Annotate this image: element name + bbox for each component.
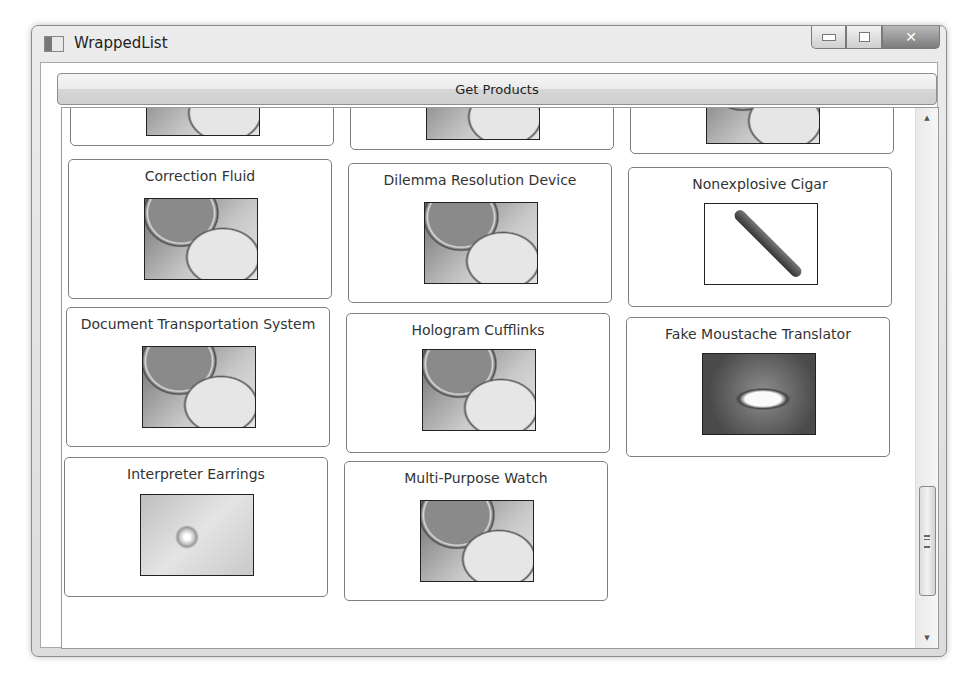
close-icon: ✕	[905, 29, 917, 45]
product-image	[706, 107, 820, 144]
cigar-icon	[732, 208, 803, 279]
product-card[interactable]: Document Transportation System	[66, 307, 330, 447]
minimize-button[interactable]	[811, 26, 846, 49]
product-card[interactable]	[630, 107, 894, 154]
product-card[interactable]: Interpreter Earrings	[64, 457, 328, 597]
product-card[interactable]: Correction Fluid	[68, 159, 332, 299]
product-image	[420, 500, 534, 582]
product-image	[142, 346, 256, 428]
product-image	[144, 198, 258, 280]
product-card[interactable]: Dilemma Resolution Device	[348, 163, 612, 303]
window-title: WrappedList	[74, 34, 168, 52]
product-card[interactable]	[350, 107, 614, 150]
maximize-icon	[859, 32, 870, 42]
scroll-down-arrow-icon[interactable]: ▼	[916, 630, 938, 646]
product-name: Multi-Purpose Watch	[345, 470, 607, 486]
title-bar[interactable]: WrappedList ✕	[32, 26, 946, 62]
vertical-scrollbar[interactable]: ▲ ▼	[915, 108, 938, 648]
product-card[interactable]	[70, 107, 334, 146]
product-name: Document Transportation System	[67, 316, 329, 332]
product-card[interactable]: Nonexplosive Cigar	[628, 167, 892, 307]
app-icon	[44, 36, 64, 52]
maximize-button[interactable]	[846, 26, 882, 49]
grip-icon	[924, 535, 930, 548]
product-image	[704, 203, 818, 285]
product-image	[140, 494, 254, 576]
product-name: Interpreter Earrings	[65, 466, 327, 482]
product-card[interactable]: Multi-Purpose Watch	[344, 461, 608, 601]
product-list[interactable]: Correction Fluid Dilemma Resolution Devi…	[61, 107, 939, 649]
product-image	[424, 202, 538, 284]
scrollbar-thumb[interactable]	[919, 486, 936, 596]
product-name: Nonexplosive Cigar	[629, 176, 891, 192]
product-card[interactable]: Hologram Cufflinks	[346, 313, 610, 453]
app-window: WrappedList ✕ Get Products Correction Fl…	[31, 25, 947, 657]
scroll-up-arrow-icon[interactable]: ▲	[916, 110, 938, 126]
product-image	[146, 107, 260, 136]
get-products-button[interactable]: Get Products	[57, 73, 937, 105]
close-button[interactable]: ✕	[882, 26, 940, 49]
product-image	[702, 353, 816, 435]
product-image	[422, 349, 536, 431]
product-name: Correction Fluid	[69, 168, 331, 184]
client-area: Get Products Correction Fluid Dilemma Re…	[40, 62, 938, 648]
product-card[interactable]: Fake Moustache Translator	[626, 317, 890, 457]
product-name: Dilemma Resolution Device	[349, 172, 611, 188]
minimize-icon	[822, 34, 836, 41]
product-name: Fake Moustache Translator	[627, 326, 889, 342]
product-image	[426, 107, 540, 140]
window-controls: ✕	[811, 26, 940, 48]
product-name: Hologram Cufflinks	[347, 322, 609, 338]
